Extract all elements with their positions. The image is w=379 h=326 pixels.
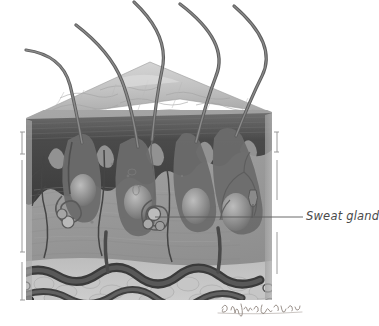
figure-root: Sweat gland — [0, 0, 379, 326]
skin-cross-section-illustration — [0, 0, 379, 326]
artist-signature — [218, 304, 302, 317]
skin-block-body — [18, 110, 278, 307]
sweat-gland-label: Sweat gland — [306, 211, 379, 223]
block-left-face — [26, 119, 32, 300]
block-side-face — [265, 113, 272, 300]
